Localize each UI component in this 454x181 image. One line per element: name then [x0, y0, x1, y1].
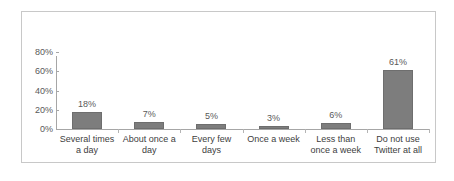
y-axis-tick-mark	[56, 71, 59, 72]
bar-slot: 18%	[56, 52, 118, 129]
x-axis-category-label: Do not use Twitter at all	[367, 134, 429, 156]
y-axis-tick-label: 60%	[21, 67, 53, 76]
x-axis-tick-mark	[305, 129, 306, 133]
bar[interactable]	[134, 122, 164, 129]
y-axis-tick-label: 80%	[21, 48, 53, 57]
y-axis-tick-mark	[56, 110, 59, 111]
x-axis-tick-mark	[180, 129, 181, 133]
bar[interactable]	[321, 123, 351, 129]
bar-slot: 6%	[305, 52, 367, 129]
y-axis-tick-mark	[56, 52, 59, 53]
bar[interactable]	[383, 70, 413, 129]
bar[interactable]	[259, 126, 289, 129]
x-axis-category-label: Less than once a week	[305, 134, 367, 156]
bar-value-label: 6%	[329, 111, 342, 120]
y-axis-tick-label: 20%	[21, 105, 53, 114]
bar-value-label: 18%	[78, 100, 96, 109]
x-axis-category-label: About once a day	[118, 134, 180, 156]
bar-slot: 61%	[367, 52, 429, 129]
bar-value-label: 61%	[389, 58, 407, 67]
bar[interactable]	[72, 112, 102, 129]
x-axis-tick-mark	[367, 129, 368, 133]
y-axis-tick-mark	[56, 91, 59, 92]
x-axis-tick-mark	[243, 129, 244, 133]
bar-value-label: 5%	[205, 112, 218, 121]
x-axis-category-labels: Several times a dayAbout once a dayEvery…	[56, 134, 430, 162]
y-axis-tick-label: 40%	[21, 86, 53, 95]
x-axis-tick-mark	[118, 129, 119, 133]
bar-slot: 5%	[180, 52, 242, 129]
bar[interactable]	[196, 124, 226, 129]
x-axis-category-label: Once a week	[243, 134, 305, 145]
plot-area: 18%7%5%3%6%61%	[56, 52, 429, 129]
y-axis-tick-labels: 0%20%40%60%80%	[22, 12, 53, 164]
x-axis-tick-mark	[429, 129, 430, 133]
chart-frame: 0%20%40%60%80% 18%7%5%3%6%61% Several ti…	[21, 11, 436, 163]
x-axis-category-label: Several times a day	[56, 134, 118, 156]
bar-slot: 7%	[118, 52, 180, 129]
bar-slot: 3%	[243, 52, 305, 129]
bar-value-label: 7%	[143, 110, 156, 119]
bar-value-label: 3%	[267, 114, 280, 123]
y-axis-tick-label: 0%	[21, 125, 53, 134]
y-axis-tick-mark	[56, 129, 59, 130]
x-axis-category-label: Every few days	[180, 134, 242, 156]
